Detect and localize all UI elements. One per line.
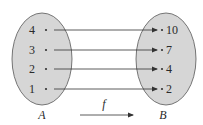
set-a-element: 2	[29, 62, 35, 76]
set-b-label: B	[159, 108, 167, 122]
set-b-element: 7	[166, 43, 172, 57]
set-b-element: 10	[166, 23, 178, 37]
set-a-element: 4	[29, 23, 35, 37]
function-label: f	[102, 97, 107, 111]
set-a-element: 1	[29, 82, 35, 96]
set-b-element: 2	[166, 82, 172, 96]
set-a-label: A	[37, 108, 46, 122]
function-diagram: 4 3 2 1 10 7 4 2 A B f	[0, 0, 203, 125]
set-a-ellipse	[12, 13, 72, 105]
set-b-element: 4	[166, 62, 172, 76]
set-a-element: 3	[29, 43, 35, 57]
